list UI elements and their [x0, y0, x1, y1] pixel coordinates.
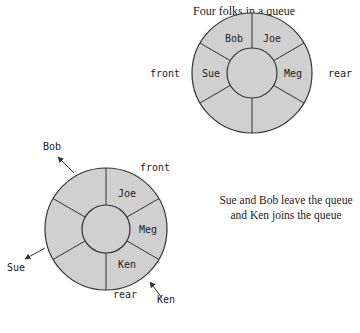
bob-leave-arrow-icon [58, 157, 74, 173]
slot-joe: Joe [263, 33, 281, 44]
slot-bob: Bob [225, 33, 243, 44]
slot-meg: Meg [284, 68, 302, 79]
bob-leaving-label: Bob [43, 141, 61, 152]
sue-leave-arrow-icon [25, 248, 45, 259]
rear-label: rear [328, 68, 352, 79]
slot-meg: Meg [139, 224, 157, 235]
queue-ring-after: Joe Meg Ken [45, 168, 167, 290]
circular-queue-diagrams: Bob Joe Meg Sue front rear Joe Meg Ken f… [0, 0, 360, 333]
sue-leaving-label: Sue [7, 262, 25, 273]
ken-joining-label: Ken [157, 294, 175, 305]
slot-sue: Sue [202, 68, 220, 79]
slot-joe: Joe [118, 188, 136, 199]
slot-ken: Ken [118, 259, 136, 270]
rear-label: rear [113, 289, 137, 300]
queue-ring-before: Bob Joe Meg Sue [192, 13, 312, 133]
front-label: front [140, 162, 170, 173]
front-label: front [150, 68, 180, 79]
